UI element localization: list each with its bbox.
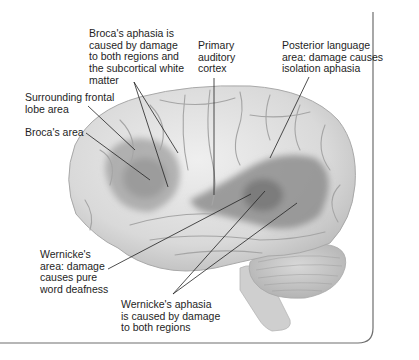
label-wernickes-area: Wernicke's area: damage causes pure word…: [40, 249, 108, 296]
label-line: Surrounding frontal: [25, 92, 114, 104]
label-wernickes-aphasia: Wernicke's aphasia is caused by damage t…: [121, 299, 220, 334]
label-line: Broca's aphasia is: [89, 28, 184, 40]
label-line: Broca's area: [25, 127, 84, 139]
label-line: to both regions: [121, 322, 220, 334]
label-brocas-aphasia: Broca's aphasia is caused by damage to b…: [89, 28, 184, 87]
label-primary-auditory-cortex: Primary auditory cortex: [198, 40, 235, 75]
brain-language-areas-figure: Broca's aphasia is caused by damage to b…: [0, 0, 419, 360]
label-line: matter: [89, 75, 184, 87]
label-line: lobe area: [25, 104, 114, 116]
label-posterior-language-area: Posterior language area: damage causes i…: [282, 40, 383, 75]
label-line: Wernicke's aphasia: [121, 299, 220, 311]
label-line: word deafness: [40, 284, 108, 296]
label-line: cortex: [198, 63, 235, 75]
label-surrounding-frontal-lobe: Surrounding frontal lobe area: [25, 92, 114, 115]
label-line: Posterior language: [282, 40, 383, 52]
label-line: Wernicke's: [40, 249, 108, 261]
label-brocas-area: Broca's area: [25, 127, 84, 139]
label-line: Primary: [198, 40, 235, 52]
label-line: isolation aphasia: [282, 63, 383, 75]
